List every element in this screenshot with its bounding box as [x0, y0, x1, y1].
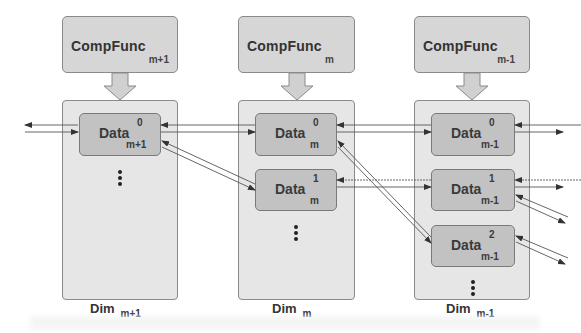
arrows-overlay: [0, 0, 581, 333]
big-down-arrow-icon: [104, 73, 488, 100]
